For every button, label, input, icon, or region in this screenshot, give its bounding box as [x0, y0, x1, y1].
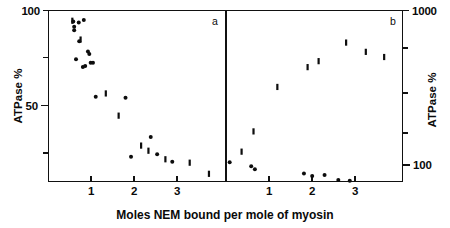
panel-a-ytick-label-100: 100: [21, 5, 40, 17]
panel-a-xtick-label-1: 1: [88, 185, 95, 197]
data-point-bar: [276, 84, 278, 90]
data-point-dot: [87, 52, 91, 56]
data-point-dot: [83, 64, 87, 68]
scatter-plot-figure: 100 50 1 2 3 a ATPase %: [0, 0, 450, 228]
data-point-dot: [170, 160, 174, 164]
panel-b-xtick-label-2: 2: [309, 185, 315, 197]
data-point-dot: [348, 179, 352, 183]
data-point-bar: [383, 54, 385, 60]
data-point-dot: [310, 174, 314, 178]
data-point-dot: [77, 20, 81, 24]
panel-b-ytick-label-100: 100: [413, 159, 432, 171]
x-axis-title: Moles NEM bound per mole of myosin: [116, 208, 333, 222]
panel-b-ytick-label-1000: 1000: [412, 5, 437, 17]
panel-a-data-points: [71, 18, 210, 177]
data-point-bar: [118, 113, 120, 119]
data-point-dot: [302, 172, 306, 176]
data-point-dot: [155, 152, 159, 156]
left-y-axis-title: ATPase %: [12, 69, 24, 124]
panel-b-xtick-label-1: 1: [266, 185, 273, 197]
panel-a-xtick-label-3: 3: [174, 185, 180, 197]
data-point-bar: [252, 128, 254, 134]
data-point-dot: [129, 155, 133, 159]
data-point-dot: [82, 18, 86, 22]
data-point-dot: [149, 135, 153, 139]
data-point-dot: [124, 96, 128, 100]
data-point-bar: [365, 49, 367, 55]
data-point-dot: [94, 95, 98, 99]
panel-a-xtick-label-2: 2: [131, 185, 137, 197]
data-point-dot: [72, 28, 76, 32]
data-point-bar: [240, 149, 242, 155]
panel-b-label: b: [390, 15, 396, 27]
panel-a-label: a: [212, 15, 218, 27]
data-point-bar: [189, 160, 191, 166]
data-point-dot: [323, 173, 327, 177]
data-point-dot: [253, 167, 257, 171]
data-point-bar: [71, 18, 73, 24]
data-point-bar: [164, 156, 166, 162]
figure-container: 100 50 1 2 3 a ATPase %: [0, 0, 450, 228]
data-point-dot: [91, 61, 95, 65]
data-point-bar: [318, 58, 320, 64]
panel-b-axes: 1000 100 1 2 3 b: [226, 5, 437, 198]
data-point-bar: [79, 36, 81, 42]
data-point-dot: [249, 164, 253, 168]
data-point-bar: [208, 171, 210, 177]
data-point-dot: [336, 178, 340, 182]
right-y-axis-title: ATPase %: [426, 73, 438, 128]
data-point-bar: [345, 39, 347, 45]
data-point-bar: [307, 64, 309, 70]
data-point-dot: [228, 160, 232, 164]
data-point-bar: [105, 90, 107, 96]
data-point-bar: [147, 148, 149, 154]
panel-b-data-points: [228, 39, 386, 182]
data-point-dot: [72, 25, 76, 29]
data-point-bar: [140, 142, 142, 148]
data-point-dot: [74, 57, 78, 61]
panel-b-xtick-label-3: 3: [352, 185, 358, 197]
panel-a-ytick-label-50: 50: [26, 100, 38, 112]
panel-a-axes: 100 50 1 2 3 a: [21, 5, 225, 198]
